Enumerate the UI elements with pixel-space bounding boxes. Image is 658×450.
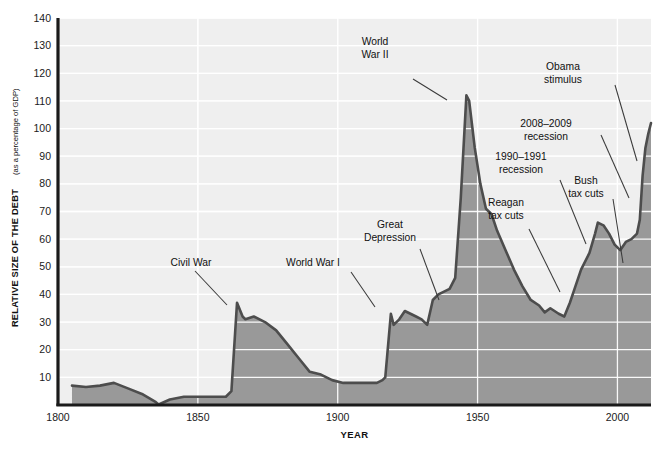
- annotation-label-great-depression: Depression: [364, 232, 416, 243]
- annotation-label-great-depression: Great: [377, 219, 403, 230]
- y-tick-label-130: 130: [33, 39, 51, 51]
- x-tick-label-2000: 2000: [606, 411, 630, 423]
- x-tick-label-1850: 1850: [186, 411, 210, 423]
- annotation-label-reagan-tax-cuts: tax cuts: [488, 210, 523, 221]
- x-tick-label-1950: 1950: [466, 411, 490, 423]
- annotation-label-obama-stimulus: Obama: [546, 61, 580, 72]
- x-tick-label-1900: 1900: [326, 411, 350, 423]
- annotation-label-world-war-ii: War II: [361, 49, 388, 60]
- y-tick-label-70: 70: [39, 205, 51, 217]
- debt-gdp-area-chart: 1020304050607080901001101201301401800185…: [0, 0, 658, 450]
- y-tick-label-10: 10: [39, 371, 51, 383]
- y-axis-title-sub: (as a percentage of GDP): [11, 88, 20, 175]
- y-tick-label-90: 90: [39, 150, 51, 162]
- annotation-label-obama-stimulus: stimulus: [544, 74, 582, 85]
- annotation-label-2008-2009-recession: recession: [524, 131, 568, 142]
- y-tick-label-60: 60: [39, 233, 51, 245]
- y-tick-label-100: 100: [33, 122, 51, 134]
- annotation-label-bush-tax-cuts: Bush: [574, 175, 598, 186]
- y-tick-label-120: 120: [33, 67, 51, 79]
- y-tick-label-140: 140: [33, 12, 51, 24]
- annotation-label-2008-2009-recession: 2008–2009: [520, 118, 572, 129]
- y-tick-label-30: 30: [39, 316, 51, 328]
- annotation-label-civil-war: Civil War: [171, 257, 212, 268]
- annotation-label-1990-1991-recession: recession: [499, 164, 543, 175]
- annotation-label-world-war-ii: World: [362, 36, 389, 47]
- x-tick-label-1800: 1800: [46, 411, 70, 423]
- y-tick-label-80: 80: [39, 177, 51, 189]
- y-axis-title: RELATIVE SIZE OF THE DEBT(as a percentag…: [10, 88, 20, 327]
- chart-figure-root: 1020304050607080901001101201301401800185…: [0, 0, 658, 450]
- y-axis-title-main: RELATIVE SIZE OF THE DEBT: [10, 189, 20, 327]
- y-tick-label-50: 50: [39, 260, 51, 272]
- annotation-label-world-war-i: World War I: [286, 257, 340, 268]
- x-axis-title: YEAR: [341, 429, 369, 440]
- y-tick-label-20: 20: [39, 343, 51, 355]
- chart-svg: 1020304050607080901001101201301401800185…: [0, 0, 658, 450]
- y-tick-label-40: 40: [39, 288, 51, 300]
- annotation-label-1990-1991-recession: 1990–1991: [495, 151, 547, 162]
- annotation-label-bush-tax-cuts: tax cuts: [568, 188, 603, 199]
- y-tick-label-110: 110: [34, 95, 51, 107]
- annotation-label-reagan-tax-cuts: Reagan: [488, 197, 524, 208]
